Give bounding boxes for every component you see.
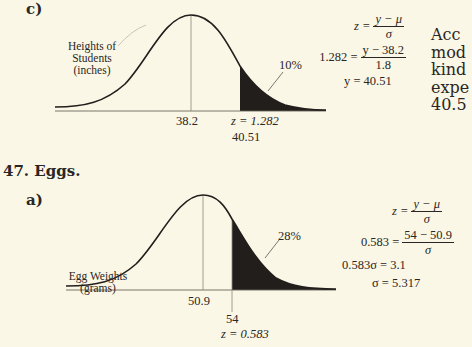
z-tick-0-583: z = 0.583 [221,327,269,342]
eq-result: σ = 5.317 [344,276,454,291]
label-line: (grams) [62,282,134,294]
eq-lhs: 0.583 = [361,235,399,250]
value-tick-54: 54 [226,312,239,327]
normal-curve-eggs [0,0,472,347]
curve-label-eggs: Egg Weights (grams) [62,270,134,294]
label-line: Egg Weights [62,270,134,282]
mean-tick-50-9: 50.9 [188,294,210,309]
eq-denominator: σ [424,212,430,226]
eq-step: 0.583σ = 3.1 [342,258,454,273]
eq-numerator: 54 − 50.9 [402,228,454,243]
eq-denominator: σ [425,243,431,257]
equations-part-a: z = y − μσ 0.583 = 54 − 50.9σ 0.583σ = 3… [344,197,454,291]
eq-numerator: y − μ [411,197,442,212]
shaded-percent-28: 28% [278,229,301,244]
eq-lhs: z = [392,204,408,219]
